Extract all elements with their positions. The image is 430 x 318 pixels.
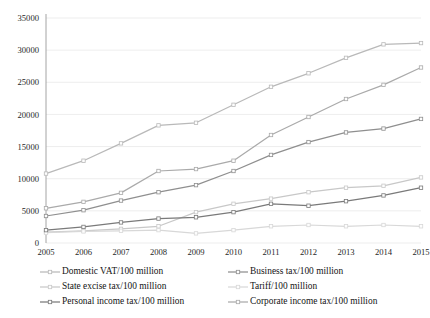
x-tick-label: 2008 (150, 247, 167, 257)
series-marker (382, 194, 385, 197)
series-marker (119, 191, 122, 194)
series-marker (419, 176, 422, 179)
series-marker (44, 172, 47, 175)
series-marker (307, 204, 310, 207)
legend-swatch-marker (48, 270, 51, 273)
series-marker (194, 167, 197, 170)
series-marker (82, 225, 85, 228)
x-tick-label: 2013 (337, 247, 354, 257)
series-marker (232, 169, 235, 172)
series-marker (119, 199, 122, 202)
series-marker (382, 184, 385, 187)
series-marker (82, 209, 85, 212)
series-marker (157, 191, 160, 194)
y-tick-label: 30000 (18, 45, 39, 55)
legend-swatch-marker (48, 285, 51, 288)
legend-label: State excise tax/100 million (62, 281, 167, 291)
series-marker (119, 142, 122, 145)
series-marker (269, 225, 272, 228)
series-line (46, 119, 421, 216)
series-marker (382, 223, 385, 226)
series-marker (419, 66, 422, 69)
legend-label: Corporate income tax/100 million (250, 296, 378, 306)
legend-swatch-marker (236, 300, 239, 303)
series-marker (82, 200, 85, 203)
legend-swatch-marker (48, 300, 51, 303)
y-tick-label: 5000 (22, 206, 39, 216)
x-tick-label: 2005 (37, 247, 54, 257)
series-marker (194, 210, 197, 213)
series-marker (232, 103, 235, 106)
y-tick-label: 15000 (18, 142, 39, 152)
series-marker (307, 140, 310, 143)
series-marker (44, 207, 47, 210)
series-marker (194, 183, 197, 186)
x-tick-label: 2006 (75, 247, 93, 257)
series-marker (344, 56, 347, 59)
series-marker (307, 72, 310, 75)
series-marker (119, 229, 122, 232)
x-tick-label: 2012 (300, 247, 317, 257)
series-marker (232, 210, 235, 213)
series-marker (307, 115, 310, 118)
series-marker (82, 230, 85, 233)
legend-label: Business tax/100 million (250, 266, 344, 276)
series-marker (344, 225, 347, 228)
x-tick-labels: 2005200620072008200920102011201220132014… (37, 247, 429, 257)
y-tick-label: 20000 (18, 110, 39, 120)
series-marker (419, 41, 422, 44)
series-marker (44, 214, 47, 217)
series-marker (157, 124, 160, 127)
series-marker (232, 159, 235, 162)
y-tick-label: 10000 (18, 174, 39, 184)
legend-label: Personal income tax/100 million (62, 296, 184, 306)
series-marker (269, 133, 272, 136)
x-tick-label: 2015 (412, 247, 429, 257)
series-marker (157, 225, 160, 228)
y-tick-label: 25000 (18, 77, 39, 87)
series-marker (82, 159, 85, 162)
series-marker (157, 217, 160, 220)
legend-swatch-marker (236, 270, 239, 273)
legend-label: Domestic VAT/100 million (62, 266, 164, 276)
series-marker (382, 43, 385, 46)
series-marker (307, 191, 310, 194)
chart-legend: Domestic VAT/100 millionState excise tax… (40, 266, 378, 306)
x-tick-label: 2014 (375, 247, 393, 257)
series-line (46, 43, 421, 174)
legend-swatch-marker (236, 285, 239, 288)
series-marker (232, 228, 235, 231)
x-tick-label: 2009 (187, 247, 204, 257)
series-marker (269, 197, 272, 200)
series-marker (119, 221, 122, 224)
chart-canvas: 05000100001500020000250003000035000 2005… (0, 0, 430, 318)
line-chart: 05000100001500020000250003000035000 2005… (0, 0, 430, 318)
x-tick-label: 2011 (263, 247, 280, 257)
series-marker (194, 232, 197, 235)
series-line (46, 188, 421, 230)
series-marker (344, 131, 347, 134)
series-marker (344, 97, 347, 100)
series-marker (344, 200, 347, 203)
legend-label: Tariff/100 million (250, 281, 317, 291)
x-tick-label: 2010 (225, 247, 242, 257)
series-marker (419, 186, 422, 189)
series-marker (157, 169, 160, 172)
series-marker (307, 223, 310, 226)
series-marker (382, 127, 385, 130)
series-marker (232, 202, 235, 205)
series-marker (269, 202, 272, 205)
series-marker (194, 121, 197, 124)
series-marker (194, 216, 197, 219)
series-marker (44, 228, 47, 231)
series-marker (419, 117, 422, 120)
series-marker (269, 153, 272, 156)
series-marker (382, 83, 385, 86)
y-tick-label: 35000 (18, 13, 39, 23)
series-marker (269, 85, 272, 88)
x-tick-label: 2007 (112, 247, 130, 257)
y-tick-labels: 05000100001500020000250003000035000 (18, 13, 39, 248)
series-marker (344, 186, 347, 189)
series-marker (157, 228, 160, 231)
series-marker (419, 225, 422, 228)
